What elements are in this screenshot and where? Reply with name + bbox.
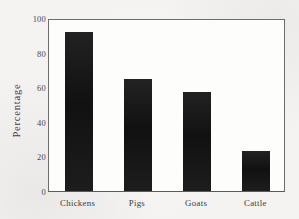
y-tick-label: 40 <box>20 119 46 128</box>
bar <box>242 151 270 191</box>
x-tick-label: Chickens <box>60 198 95 208</box>
y-tick-label: 60 <box>20 84 46 93</box>
x-tick-label: Pigs <box>129 198 145 208</box>
bar <box>65 32 93 191</box>
y-tick-label: 0 <box>20 188 46 197</box>
bar <box>124 79 152 191</box>
plot-area <box>48 19 285 192</box>
y-tick-label: 20 <box>20 153 46 162</box>
y-tick-label: 100 <box>20 15 46 24</box>
x-tick-label: Cattle <box>244 198 267 208</box>
y-tick-label: 80 <box>20 49 46 58</box>
bar <box>183 92 211 191</box>
chart-figure: Percentage 020406080100 ChickensPigsGoat… <box>0 0 299 219</box>
x-tick-label: Goats <box>185 198 207 208</box>
